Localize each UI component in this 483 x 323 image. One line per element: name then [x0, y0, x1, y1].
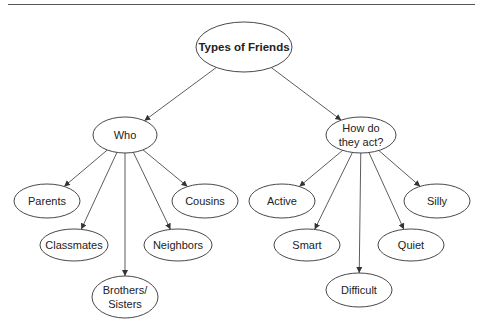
node-root: Types of Friends — [196, 22, 292, 72]
node-how: How dothey act? — [326, 117, 396, 153]
node-label: Silly — [427, 195, 448, 207]
node-parents: Parents — [14, 184, 80, 218]
node-smart: Smart — [274, 229, 340, 261]
node-label: Parents — [28, 195, 66, 207]
edge-how-to-difficult — [359, 153, 361, 273]
edge-how-to-active — [299, 150, 342, 186]
node-quiet: Quiet — [378, 229, 444, 261]
node-cousins: Cousins — [172, 184, 238, 218]
edge-how-to-silly — [379, 150, 420, 186]
edge-how-to-quiet — [369, 153, 404, 230]
edge-root-to-how — [271, 68, 341, 121]
node-active: Active — [249, 184, 315, 218]
edge-who-to-classmates — [81, 152, 117, 229]
node-who: Who — [93, 117, 157, 153]
node-label: Types of Friends — [198, 41, 289, 53]
edge-root-to-who — [144, 67, 216, 120]
node-silly: Silly — [404, 184, 470, 218]
node-label: Neighbors — [153, 239, 204, 251]
edges-layer — [64, 67, 420, 276]
node-difficult: Difficult — [326, 273, 392, 307]
node-label: Who — [114, 129, 137, 141]
node-label: Active — [267, 195, 297, 207]
node-label: they act? — [339, 136, 384, 148]
concept-map-diagram: Types of FriendsWhoHow dothey act?Parent… — [0, 0, 483, 323]
node-label: Difficult — [341, 284, 377, 296]
node-label: How do — [342, 122, 379, 134]
node-classmates: Classmates — [40, 229, 108, 261]
node-label: Quiet — [398, 239, 424, 251]
node-label: Cousins — [185, 195, 225, 207]
node-label: Sisters — [108, 298, 142, 310]
edge-who-to-cousins — [143, 150, 187, 187]
edge-who-to-parents — [64, 150, 107, 186]
node-label: Smart — [292, 239, 321, 251]
node-label: Brothers/ — [103, 284, 149, 296]
node-neighbors: Neighbors — [144, 229, 212, 261]
node-label: Classmates — [45, 239, 103, 251]
node-siblings: Brothers/Sisters — [92, 276, 158, 318]
edge-how-to-smart — [315, 152, 353, 229]
edge-who-to-neighbors — [133, 152, 170, 229]
